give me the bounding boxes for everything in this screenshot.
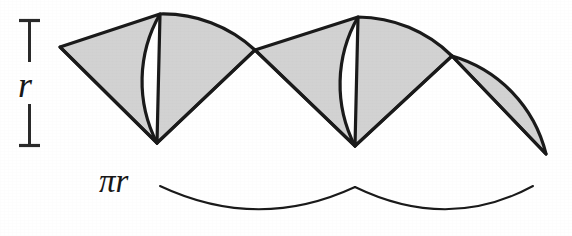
sector-shape-1 — [60, 14, 160, 143]
sector-shape-4 — [355, 17, 452, 146]
arc-underline-left — [160, 186, 355, 209]
sector-diagram-svg — [0, 0, 572, 236]
arc-underline-right — [355, 186, 533, 209]
figure-container: r πr — [0, 0, 572, 236]
radius-label: r — [18, 67, 32, 103]
sector-shape-3 — [255, 17, 358, 146]
arc-length-label: πr — [99, 165, 128, 198]
radius-divider-5 — [452, 56, 546, 154]
sector-shape-2 — [157, 14, 255, 143]
